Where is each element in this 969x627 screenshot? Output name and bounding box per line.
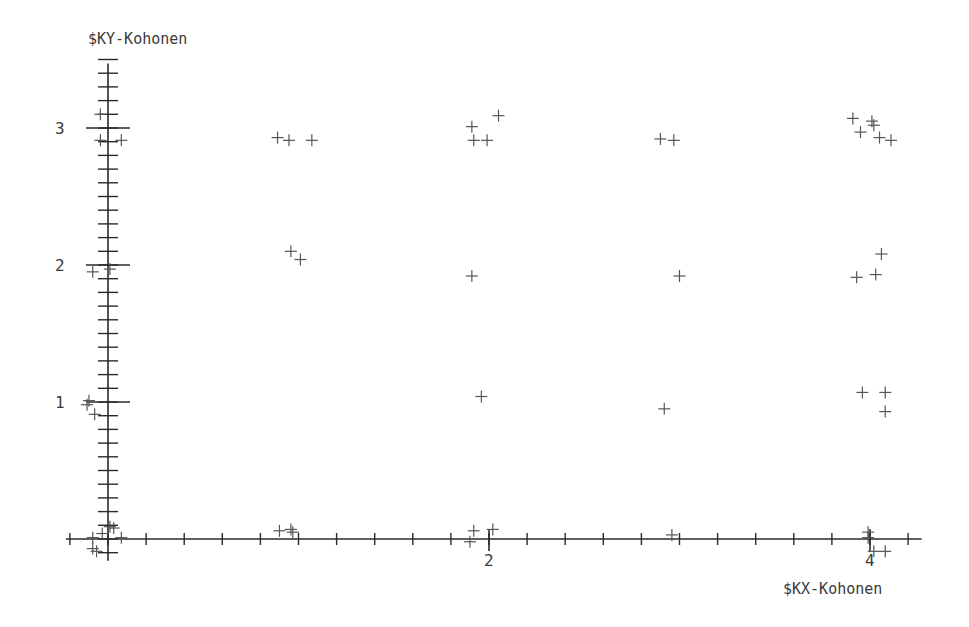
y-axis-label: $KY-Kohonen (88, 30, 187, 48)
data-point (468, 134, 480, 146)
data-point (272, 132, 284, 144)
data-point (654, 133, 666, 145)
data-point (466, 121, 478, 133)
axes: 24123 (55, 60, 922, 571)
scatter-plot: 24123 $KY-Kohonen $KX-Kohonen (0, 0, 969, 627)
data-point (870, 269, 882, 281)
data-point (481, 134, 493, 146)
data-point (287, 526, 299, 538)
data-point (283, 134, 295, 146)
x-tick-label: 2 (484, 551, 494, 570)
data-point (285, 245, 297, 257)
data-point (464, 536, 476, 548)
data-point (87, 266, 99, 278)
data-point (879, 386, 891, 398)
data-point (856, 386, 868, 398)
data-point (115, 532, 127, 544)
data-point (658, 403, 670, 415)
data-point (466, 270, 478, 282)
data-point (854, 126, 866, 138)
x-axis-label: $KX-Kohonen (783, 580, 882, 598)
data-point (885, 134, 897, 146)
data-point (94, 134, 106, 146)
data-points (81, 108, 897, 557)
data-point (468, 525, 480, 537)
data-point (879, 406, 891, 418)
y-tick-label: 3 (55, 119, 65, 138)
data-point (306, 134, 318, 146)
y-tick-label: 1 (55, 393, 65, 412)
data-point (273, 525, 285, 537)
data-point (94, 108, 106, 120)
data-point (294, 254, 306, 266)
data-point (847, 112, 859, 124)
x-tick-label: 4 (865, 551, 875, 570)
data-point (668, 134, 680, 146)
data-point (879, 545, 891, 557)
data-point (475, 391, 487, 403)
data-point (874, 132, 886, 144)
data-point (674, 270, 686, 282)
y-tick-label: 2 (55, 256, 65, 275)
data-point (89, 408, 101, 420)
data-point (875, 248, 887, 260)
data-point (285, 523, 297, 535)
data-point (862, 532, 874, 544)
data-point (493, 110, 505, 122)
data-point (115, 134, 127, 146)
data-point (851, 271, 863, 283)
